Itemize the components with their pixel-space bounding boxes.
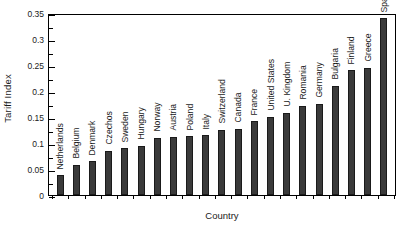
y-axis-tick-label: 0.35 xyxy=(27,9,44,19)
x-axis-category-label: Bulgaria xyxy=(331,48,340,80)
x-axis-tick xyxy=(117,195,118,199)
y-axis-tick-label: 0.3 xyxy=(32,35,44,45)
y-axis-major-tick xyxy=(49,41,55,42)
bar xyxy=(89,161,96,195)
bar xyxy=(73,165,80,195)
x-axis-category-label: United States xyxy=(266,59,275,111)
bar-slot: Italy xyxy=(198,15,214,195)
plot-area: NetherlandsBelgiumDenmarkCzechosSwedenHu… xyxy=(48,14,396,196)
y-axis-minor-tick xyxy=(49,106,53,107)
bar-slot: Greece xyxy=(360,15,376,195)
y-axis-minor-tick xyxy=(49,184,53,185)
x-axis-category-label: Canada xyxy=(234,93,243,123)
bar xyxy=(218,130,225,195)
bar xyxy=(316,104,323,195)
x-axis-tick xyxy=(247,195,248,199)
x-axis-tick xyxy=(280,195,281,199)
bar-slot: Hungary xyxy=(133,15,149,195)
bar-slot: United States xyxy=(262,15,278,195)
x-axis-category-label: Poland xyxy=(185,103,194,130)
bar-slot: Norway xyxy=(149,15,165,195)
x-axis-tick xyxy=(150,195,151,199)
y-axis-major-tick xyxy=(49,171,55,172)
y-axis-minor-tick xyxy=(49,28,53,29)
y-axis-tick-label: 0.05 xyxy=(27,165,44,175)
bar-slot: Bulgaria xyxy=(327,15,343,195)
bar xyxy=(202,135,209,195)
y-axis-title-text: Tariff Index xyxy=(2,74,13,123)
x-axis-category-label: Finland xyxy=(347,36,356,64)
y-axis-tick-label: 0.15 xyxy=(27,113,44,123)
x-axis-tick xyxy=(378,195,379,199)
x-axis-tick xyxy=(329,195,330,199)
x-axis-tick xyxy=(68,195,69,199)
x-axis-category-label: Austria xyxy=(169,104,178,131)
x-axis-tick xyxy=(182,195,183,199)
bar-slot: Finland xyxy=(343,15,359,195)
x-axis-category-label: Denmark xyxy=(88,120,97,155)
bar-slot: Belgium xyxy=(68,15,84,195)
y-axis-major-tick xyxy=(49,93,55,94)
bar-slot: France xyxy=(246,15,262,195)
x-axis-category-label: Germany xyxy=(315,63,324,98)
x-axis-tick xyxy=(296,195,297,199)
bar xyxy=(138,146,145,195)
bar-slot: Austria xyxy=(165,15,181,195)
x-axis-tick xyxy=(345,195,346,199)
bar xyxy=(105,151,112,195)
x-axis-category-label: Netherlands xyxy=(56,123,65,169)
x-axis-category-label: Norway xyxy=(153,103,162,132)
bar xyxy=(380,18,387,195)
y-axis-major-tick xyxy=(49,145,55,146)
x-axis-tick xyxy=(199,195,200,199)
bar-slot: Switzerland xyxy=(214,15,230,195)
x-axis-tick xyxy=(264,195,265,199)
y-axis-major-tick xyxy=(49,119,55,120)
x-axis-category-label: Italy xyxy=(201,113,210,129)
bar xyxy=(332,86,339,195)
x-axis-tick xyxy=(166,195,167,199)
y-axis-minor-tick xyxy=(49,54,53,55)
bar-slot: Denmark xyxy=(84,15,100,195)
x-axis-tick xyxy=(85,195,86,199)
bar xyxy=(170,137,177,195)
y-axis-major-tick xyxy=(49,67,55,68)
y-axis-minor-tick xyxy=(49,132,53,133)
tariff-index-bar-chart: Tariff Index 00.050.10.150.20.250.30.35 … xyxy=(0,0,403,229)
x-axis-tick xyxy=(133,195,134,199)
y-axis-major-tick xyxy=(49,15,55,16)
x-axis-category-label: Czechos xyxy=(104,111,113,144)
x-axis-tick xyxy=(313,195,314,199)
bar-slot: Poland xyxy=(182,15,198,195)
x-axis-title: Country xyxy=(48,210,396,221)
y-axis-tick-labels: 00.050.10.150.20.250.30.35 xyxy=(12,0,46,229)
bar xyxy=(299,106,306,195)
bar xyxy=(251,121,258,195)
x-axis-category-label: Sweden xyxy=(121,111,130,142)
bar-slot: Canada xyxy=(230,15,246,195)
bar xyxy=(154,138,161,195)
bar-slot: Germany xyxy=(311,15,327,195)
bar-slot: Netherlands xyxy=(52,15,68,195)
x-axis-category-label: Greece xyxy=(363,33,372,61)
bar xyxy=(186,136,193,195)
x-axis-tick xyxy=(394,195,395,199)
bar xyxy=(348,70,355,195)
x-axis-tick xyxy=(361,195,362,199)
bar-slot: Czechos xyxy=(101,15,117,195)
y-axis-tick-label: 0.25 xyxy=(27,61,44,71)
x-axis-tick xyxy=(215,195,216,199)
x-axis-tick xyxy=(52,195,53,199)
x-axis-tick xyxy=(231,195,232,199)
bar xyxy=(235,129,242,195)
bar-slot: Romania xyxy=(295,15,311,195)
x-axis-tick xyxy=(101,195,102,199)
x-axis-category-label: Spain xyxy=(380,0,389,12)
bar-slot: Spain xyxy=(376,15,392,195)
bar-slot: Sweden xyxy=(117,15,133,195)
bar xyxy=(121,148,128,195)
x-axis-category-label: Belgium xyxy=(72,128,81,159)
bar xyxy=(57,175,64,195)
y-axis-tick-label: 0.2 xyxy=(32,87,44,97)
x-axis-category-label: U. Kingdom xyxy=(282,62,291,107)
